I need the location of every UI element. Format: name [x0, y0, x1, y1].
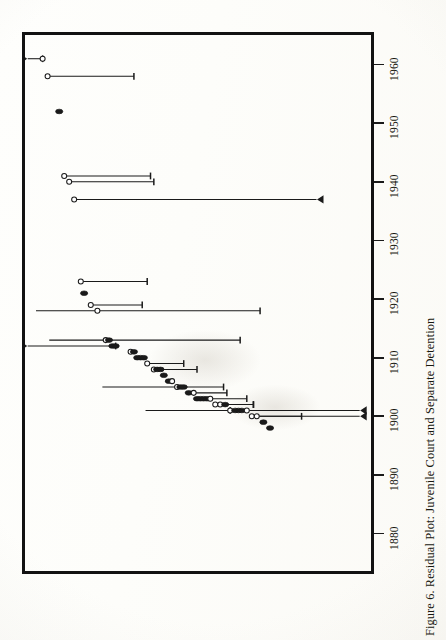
figure-page: 188018901900191019201930194019501960 Fig… — [0, 0, 446, 640]
marker-filled — [157, 367, 164, 372]
axis-tick — [374, 122, 384, 124]
marker-filled — [81, 291, 88, 296]
residual-interval — [45, 73, 134, 80]
marker-open — [208, 396, 213, 401]
residual-interval — [191, 389, 227, 396]
marker-open — [244, 408, 249, 413]
residual-interval — [208, 395, 247, 402]
marker-filled — [222, 402, 229, 407]
marker-filled — [130, 350, 137, 355]
residual-interval — [145, 360, 184, 367]
residual-interval — [260, 420, 267, 425]
residual-interval — [36, 307, 260, 314]
plot-canvas — [25, 35, 371, 571]
residual-interval — [62, 173, 151, 180]
axis-tick-label: 1920 — [388, 291, 400, 315]
axis-tick — [374, 64, 384, 66]
marker-open — [213, 402, 218, 407]
marker-open — [45, 74, 50, 79]
axis-tick — [374, 357, 384, 359]
axis-tick — [374, 240, 384, 242]
marker-open — [170, 379, 175, 384]
axis-tick-label: 1880 — [388, 526, 400, 550]
marker-filled — [160, 373, 167, 378]
residual-interval — [88, 302, 142, 309]
residual-interval — [56, 109, 63, 114]
axis-tick-label: 1940 — [388, 174, 400, 198]
residual-interval — [130, 350, 137, 355]
axis-tick-label: 1910 — [388, 350, 400, 374]
marker-open — [88, 302, 93, 307]
axis-tick-label: 1930 — [388, 233, 400, 257]
axis-tick — [374, 181, 384, 183]
residual-interval — [170, 379, 175, 384]
residual-interval — [105, 338, 112, 343]
axis-tick — [374, 474, 384, 476]
marker-open — [145, 361, 150, 366]
year-axis: 188018901900191019201930194019501960 — [374, 32, 408, 574]
axis-tick — [374, 415, 384, 417]
residual-interval — [146, 407, 233, 414]
residual-interval — [160, 373, 167, 378]
marker-open — [254, 414, 259, 419]
marker-open — [40, 56, 45, 61]
residual-interval — [78, 278, 147, 285]
residual-interval — [244, 406, 366, 414]
marker-open — [62, 173, 67, 178]
marker-open — [67, 179, 72, 184]
residual-interval — [266, 426, 273, 431]
figure-caption: Figure 6. Residual Plot: Juvenile Court … — [423, 318, 438, 636]
marker-open — [78, 279, 83, 284]
residual-interval — [67, 178, 154, 185]
axis-tick — [374, 533, 384, 535]
residual-interval — [81, 291, 88, 296]
marker-filled — [112, 344, 119, 349]
axis-tick-label: 1890 — [388, 467, 400, 491]
residual-interval — [180, 385, 187, 390]
axis-tick-label: 1950 — [388, 115, 400, 139]
residual-interval — [49, 337, 240, 344]
residual-interval — [140, 355, 147, 360]
axis-tick-label: 1960 — [388, 57, 400, 81]
residual-interval — [25, 55, 45, 63]
marker-open — [191, 390, 196, 395]
residual-interval — [254, 413, 301, 420]
residual-interval — [102, 384, 223, 391]
axis-tick — [374, 298, 384, 300]
axis-tick-label: 1900 — [388, 408, 400, 432]
marker-filled — [180, 385, 187, 390]
marker-open — [72, 197, 77, 202]
marker-open — [95, 308, 100, 313]
marker-filled — [56, 109, 63, 114]
marker-filled — [105, 338, 112, 343]
plot-frame — [22, 32, 374, 574]
marker-filled — [140, 355, 147, 360]
marker-filled — [260, 420, 267, 425]
residual-interval — [72, 195, 324, 203]
residual-interval — [222, 402, 229, 407]
marker-open — [249, 414, 254, 419]
residual-interval — [157, 367, 164, 372]
marker-filled — [266, 426, 273, 431]
